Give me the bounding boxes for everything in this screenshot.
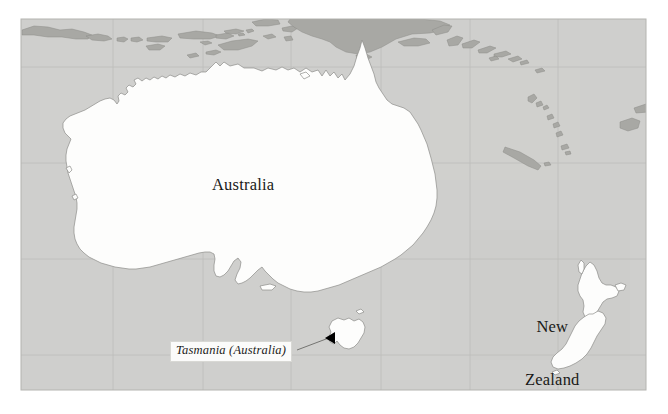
label-new-zealand: New Zealand — [525, 282, 580, 414]
label-australia: Australia — [212, 176, 274, 194]
label-new-zealand-line2: Zealand — [525, 371, 580, 389]
island-vanuatu-h — [565, 151, 571, 155]
island-aru — [284, 36, 293, 41]
map-canvas: Australia New Zealand Tasmania (Australi… — [0, 0, 668, 414]
label-new-zealand-line1: New — [525, 318, 580, 336]
label-tasmania-callout: Tasmania (Australia) — [170, 341, 292, 362]
